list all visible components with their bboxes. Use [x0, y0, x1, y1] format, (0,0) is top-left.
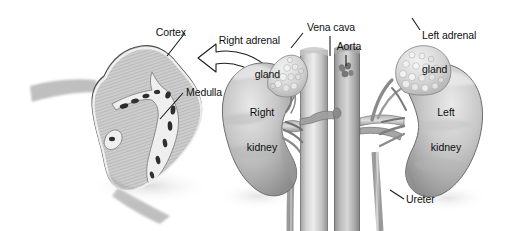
- label-left-adrenal-gland-line2: gland: [422, 64, 502, 75]
- label-left-adrenal-gland-line1: Left adrenal: [422, 30, 502, 41]
- label-vena-cava: Vena cava: [300, 22, 362, 34]
- medulla-nodule: [109, 137, 115, 141]
- label-left-kidney-line1: Left: [421, 107, 471, 119]
- label-cortex: Cortex: [118, 27, 186, 39]
- label-left-kidney-line2: kidney: [421, 142, 471, 154]
- aorta-branch-nub: [333, 108, 341, 118]
- label-left-kidney: Left kidney: [421, 84, 471, 176]
- label-right-kidney-line1: Right: [236, 107, 288, 119]
- label-right-adrenal-gland-line2: gland: [196, 69, 280, 80]
- anatomical-figure: Cortex Medulla Right adrenal gland Vena …: [0, 0, 507, 231]
- label-aorta: Aorta: [331, 41, 367, 53]
- label-right-kidney: Right kidney: [236, 84, 288, 176]
- label-right-kidney-line2: kidney: [236, 142, 288, 154]
- label-right-adrenal-gland-line1: Right adrenal: [196, 35, 280, 46]
- label-ureter: Ureter: [406, 194, 452, 206]
